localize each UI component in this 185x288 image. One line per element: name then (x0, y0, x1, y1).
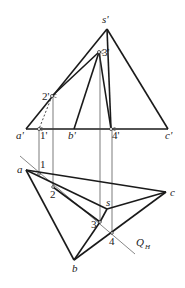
label-4-prime: 4' (112, 129, 120, 141)
label-1-prime: 1' (40, 129, 48, 141)
edge-s3-top (100, 209, 107, 222)
label-c: c (170, 186, 175, 198)
edge-ab-top (26, 170, 74, 260)
projection-diagram: s' 3' 2' a' 1' b' 4' c' a 1 2 c s 3 4 b … (0, 0, 185, 288)
label-s-prime: s' (102, 13, 109, 25)
label-b-prime: b' (68, 129, 77, 141)
edge-bc-top (74, 192, 166, 260)
edge-sc-top (107, 192, 166, 209)
diagram-canvas: s' 3' 2' a' 1' b' 4' c' a 1 2 c s 3 4 b … (0, 0, 185, 288)
point-3-top (99, 221, 102, 224)
label-a-prime: a' (16, 129, 25, 141)
label-c-prime: c' (165, 129, 173, 141)
point-4-top (111, 232, 114, 235)
label-1: 1 (40, 158, 46, 170)
label-s: s (106, 196, 110, 208)
label-a: a (17, 163, 23, 175)
front-view (26, 29, 168, 129)
label-3-prime: 3' (102, 46, 110, 58)
label-2-prime: 2' (42, 90, 50, 102)
point-2-front (51, 95, 54, 98)
label-h-subscript: H (144, 243, 151, 251)
label-4: 4 (109, 235, 115, 247)
label-b: b (72, 262, 78, 274)
edge-ac-top (26, 170, 166, 192)
point-3-front (98, 51, 101, 54)
label-2: 2 (50, 188, 56, 200)
label-3: 3 (91, 218, 97, 230)
edge-23-top (53, 187, 100, 222)
edge-sc-front (107, 29, 168, 129)
edge-sa-front (26, 29, 107, 129)
point-1-top (38, 173, 41, 176)
label-q: Q (136, 236, 144, 248)
